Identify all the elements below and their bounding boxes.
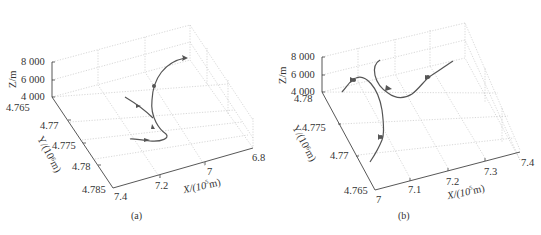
- aircraft-markers-a: [136, 52, 188, 142]
- y-tick: 4.78: [294, 93, 312, 104]
- z-axis-label: Z/m: [7, 71, 18, 89]
- x-tick: 6.8: [252, 152, 265, 163]
- aircraft-markers-b: [350, 75, 431, 140]
- x-tick: 7: [207, 166, 212, 177]
- z-tick-6000: 6 000: [291, 69, 315, 80]
- z-tick-4000: 4 000: [21, 91, 45, 102]
- plot-b-canvas: [270, 0, 541, 235]
- y-tick: 4.78: [72, 161, 90, 172]
- x-tick: 7.2: [446, 176, 459, 187]
- x-tick: 7.4: [521, 157, 534, 168]
- x-tick: 7: [376, 194, 381, 205]
- y-tick: 4.775: [52, 140, 76, 151]
- trajectory-a: [125, 58, 185, 141]
- caption-b: (b): [398, 210, 410, 221]
- y-tick: 4.77: [40, 120, 58, 131]
- x-tick: 7.2: [155, 180, 168, 191]
- plot-a-canvas: [0, 0, 270, 235]
- caption-a: (a): [131, 210, 142, 221]
- y-tick: 4.765: [6, 102, 30, 113]
- y-tick: 4.775: [302, 122, 326, 133]
- y-tick: 4.77: [330, 150, 348, 161]
- z-axis-label: Z/m: [277, 67, 288, 85]
- x-tick: 7.4: [114, 191, 127, 202]
- z-tick-8000: 8 000: [21, 56, 45, 67]
- y-tick: 4.765: [344, 185, 368, 196]
- plot-b: 8 000 6 000 4 000 Z/m 4.78 4.775 4.77 4.…: [270, 0, 541, 235]
- x-tick: 7.3: [484, 166, 497, 177]
- z-tick-8000: 8 000: [291, 51, 315, 62]
- plot-a: 8 000 6 000 4 000 Z/m 4.765 4.77 4.775 4…: [0, 0, 270, 235]
- z-tick-6000: 6 000: [21, 74, 45, 85]
- x-tick: 7.1: [408, 184, 421, 195]
- y-tick: 4.785: [82, 184, 106, 195]
